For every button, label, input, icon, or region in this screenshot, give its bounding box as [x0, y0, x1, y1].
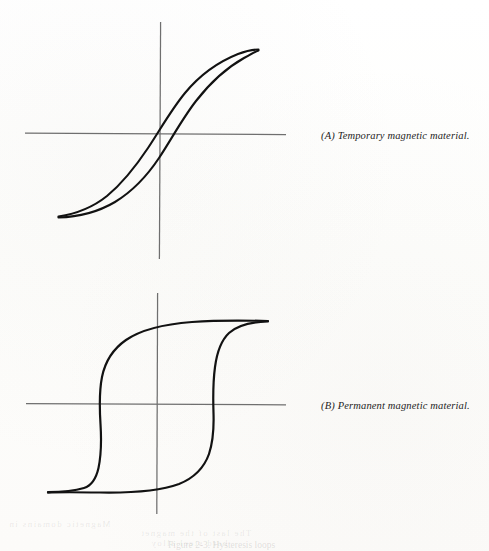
- figure-b-x-axis: [26, 404, 286, 405]
- figure-a-caption: (A) Temporary magnetic material.: [321, 130, 469, 141]
- bleed-through-figure-number: Figure 2-3. Hysteresis loops: [168, 540, 275, 550]
- page-canvas: (A) Temporary magnetic material. (B) Per…: [0, 0, 489, 551]
- figure-b-hysteresis-plot: [0, 0, 320, 551]
- figure-b-caption: (B) Permanent magnetic material.: [321, 400, 470, 411]
- figure-b-axes: [26, 293, 286, 514]
